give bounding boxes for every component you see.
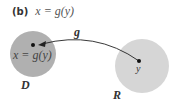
point-d-label: x = g(y) (13, 48, 52, 63)
point-x (31, 43, 35, 47)
point-r-label: y (136, 63, 140, 74)
domain-label: D (21, 78, 30, 93)
range-circle (115, 39, 169, 93)
map-label: g (74, 25, 80, 40)
range-label: R (113, 88, 121, 103)
